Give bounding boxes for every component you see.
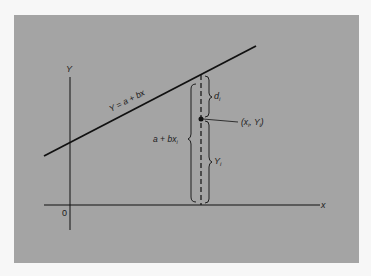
x-axis-label: x: [320, 200, 326, 210]
data-point: [199, 117, 204, 122]
point-label: (xi, Yi): [241, 117, 264, 128]
brace-deviation: [205, 76, 212, 117]
regression-line: [44, 46, 256, 156]
brace-observed: [205, 121, 212, 203]
y-axis-label: Y: [66, 64, 73, 74]
deviation-label: di: [214, 91, 221, 102]
point-leader-line: [203, 119, 238, 122]
origin-label: 0: [62, 208, 67, 218]
fitted-value-label: a + bxi: [153, 134, 178, 145]
observed-value-label: Yi: [214, 156, 222, 167]
regression-diagram: Y x 0 Y = a + bx di (xi, Yi) a + bxi Yi: [0, 0, 371, 276]
brace-fitted: [188, 84, 196, 202]
regression-line-label: Y = a + bx: [107, 87, 147, 114]
